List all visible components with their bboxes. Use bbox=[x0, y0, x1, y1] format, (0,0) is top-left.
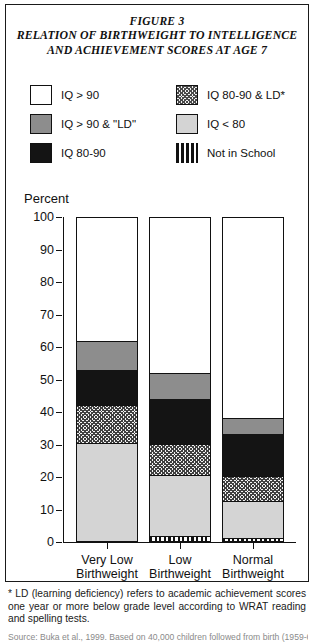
segment-not-in-school bbox=[150, 536, 210, 541]
legend-label-iq-gt-90-ld: IQ > 90 & "LD" bbox=[61, 118, 136, 130]
x-label-line-1: Low bbox=[169, 553, 192, 567]
x-label-line-1: Very Low bbox=[81, 553, 132, 567]
legend-label-iq-80-90: IQ 80-90 bbox=[61, 147, 106, 159]
x-axis-labels: Very Low Birthweight Low Birthweight Nor… bbox=[64, 553, 296, 587]
y-tick-label-70: 70 bbox=[40, 309, 54, 321]
y-axis: 100 90 80 70 60 50 40 30 20 10 0 bbox=[20, 211, 64, 547]
figure-title-line-2: AND ACHIEVEMENT SCORES AT AGE 7 bbox=[6, 43, 308, 58]
figure-title-line-1: RELATION OF BIRTHWEIGHT TO INTELLIGENCE bbox=[6, 28, 308, 43]
light-gray-swatch-icon bbox=[176, 114, 198, 134]
legend-label-not-in-school: Not in School bbox=[207, 147, 275, 159]
segment-iq-gt-90 bbox=[150, 218, 210, 373]
y-tick-label-30: 30 bbox=[40, 439, 54, 451]
x-label-line-1: Normal bbox=[233, 553, 273, 567]
x-tick-mark-low bbox=[180, 543, 181, 549]
checkerboard-swatch-icon bbox=[176, 85, 198, 105]
y-axis-title: Percent bbox=[24, 191, 69, 206]
y-tick-label-100: 100 bbox=[33, 211, 54, 223]
black-swatch-icon bbox=[30, 143, 52, 163]
y-tick-mark-50 bbox=[56, 380, 62, 381]
white-swatch-icon bbox=[30, 85, 52, 105]
y-tick-label-90: 90 bbox=[40, 244, 54, 256]
segment-iq-80-90-ld bbox=[223, 476, 283, 502]
bar-low-birthweight[interactable] bbox=[149, 217, 211, 542]
vertical-stripe-swatch-icon bbox=[176, 143, 198, 163]
y-tick-label-0: 0 bbox=[47, 536, 54, 548]
segment-iq-gt-90-ld bbox=[223, 418, 283, 434]
segment-iq-lt-80 bbox=[77, 444, 137, 541]
segment-iq-80-90 bbox=[223, 434, 283, 476]
figure-title-block: FIGURE 3 RELATION OF BIRTHWEIGHT TO INTE… bbox=[6, 14, 308, 58]
segment-iq-gt-90-ld bbox=[77, 341, 137, 370]
y-tick-mark-60 bbox=[56, 347, 62, 348]
y-tick-mark-30 bbox=[56, 445, 62, 446]
segment-iq-lt-80 bbox=[150, 476, 210, 536]
legend-item-iq-80-90-ld: IQ 80-90 & LD* bbox=[176, 85, 285, 105]
y-tick-mark-80 bbox=[56, 282, 62, 283]
x-label-very-low-birthweight: Very Low Birthweight bbox=[67, 553, 147, 581]
y-tick-mark-90 bbox=[56, 250, 62, 251]
y-tick-label-60: 60 bbox=[40, 341, 54, 353]
legend-item-iq-80-90: IQ 80-90 bbox=[30, 143, 106, 163]
y-tick-label-10: 10 bbox=[40, 504, 54, 516]
footnote-text: * LD (learning deficiency) refers to aca… bbox=[8, 588, 306, 626]
segment-iq-lt-80 bbox=[223, 502, 283, 538]
y-tick-label-80: 80 bbox=[40, 276, 54, 288]
x-axis-ticks bbox=[64, 543, 296, 551]
segment-iq-gt-90 bbox=[77, 218, 137, 341]
legend-label-iq-gt-90: IQ > 90 bbox=[61, 89, 99, 101]
y-tick-mark-40 bbox=[56, 412, 62, 413]
legend-item-iq-lt-80: IQ < 80 bbox=[176, 114, 245, 134]
bar-group bbox=[64, 217, 296, 542]
legend-item-iq-gt-90: IQ > 90 bbox=[30, 85, 99, 105]
y-tick-label-20: 20 bbox=[40, 471, 54, 483]
segment-iq-gt-90-ld bbox=[150, 373, 210, 399]
y-tick-label-50: 50 bbox=[40, 374, 54, 386]
x-label-normal-birthweight: Normal Birthweight bbox=[213, 553, 293, 581]
legend-label-iq-lt-80: IQ < 80 bbox=[207, 118, 245, 130]
segment-not-in-school bbox=[223, 538, 283, 541]
bar-normal-birthweight[interactable] bbox=[222, 217, 284, 542]
y-tick-mark-20 bbox=[56, 477, 62, 478]
x-tick-mark-normal bbox=[253, 543, 254, 549]
chart-legend: IQ > 90 IQ 80-90 & LD* IQ > 90 & "LD" IQ… bbox=[30, 85, 298, 165]
bar-very-low-birthweight[interactable] bbox=[76, 217, 138, 542]
x-label-low-birthweight: Low Birthweight bbox=[140, 553, 220, 581]
x-label-line-2: Birthweight bbox=[149, 567, 211, 581]
segment-iq-80-90 bbox=[77, 370, 137, 406]
figure-frame: FIGURE 3 RELATION OF BIRTHWEIGHT TO INTE… bbox=[5, 4, 309, 582]
x-tick-mark-very-low bbox=[107, 543, 108, 549]
legend-item-not-in-school: Not in School bbox=[176, 143, 275, 163]
legend-item-iq-gt-90-ld: IQ > 90 & "LD" bbox=[30, 114, 136, 134]
x-label-line-2: Birthweight bbox=[222, 567, 284, 581]
dark-gray-swatch-icon bbox=[30, 114, 52, 134]
y-tick-mark-10 bbox=[56, 510, 62, 511]
y-tick-mark-70 bbox=[56, 315, 62, 316]
y-tick-mark-100 bbox=[56, 217, 62, 218]
y-tick-label-40: 40 bbox=[40, 406, 54, 418]
legend-label-iq-80-90-ld: IQ 80-90 & LD* bbox=[207, 89, 285, 101]
x-label-line-2: Birthweight bbox=[76, 567, 138, 581]
segment-iq-80-90-ld bbox=[150, 444, 210, 476]
source-line: Source: Buka et al., 1999. Based on 40,0… bbox=[8, 632, 308, 642]
y-tick-mark-0 bbox=[56, 542, 62, 543]
segment-iq-80-90-ld bbox=[77, 405, 137, 444]
segment-iq-gt-90 bbox=[223, 218, 283, 418]
chart-plot-area: 100 90 80 70 60 50 40 30 20 10 0 bbox=[20, 211, 296, 547]
figure-number: FIGURE 3 bbox=[6, 14, 308, 28]
segment-iq-80-90 bbox=[150, 399, 210, 444]
